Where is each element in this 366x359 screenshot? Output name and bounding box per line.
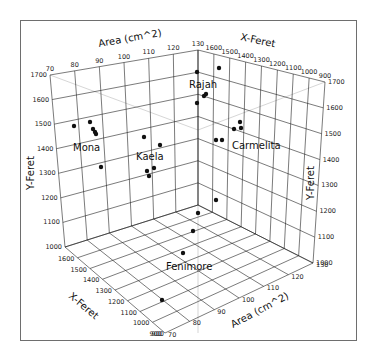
data-point-fenimore: [214, 198, 218, 202]
tick-area-top: 80: [71, 61, 79, 69]
tick-area-top: 130: [192, 40, 204, 48]
data-point-carmelita: [239, 126, 243, 130]
data-point-kaela: [142, 135, 146, 139]
data-point-rajah: [204, 92, 208, 96]
tick-xferet-bottom: 1100: [120, 309, 137, 317]
tick-yferet-right: 1100: [318, 233, 335, 241]
tick-xferet-bottom: 1200: [108, 298, 125, 306]
tick-xferet-top: 1400: [237, 52, 254, 60]
group-label-kaela: Kaela: [136, 151, 164, 162]
data-point-fenimore: [181, 251, 185, 255]
data-point-carmelita: [214, 138, 218, 142]
tick-area-bottom: 110: [267, 284, 279, 292]
data-point-rajah: [195, 70, 199, 74]
data-point-rajah: [217, 66, 221, 70]
tick-area-bottom: 90: [217, 308, 225, 316]
tick-yferet-left: 1100: [43, 218, 60, 226]
tick-area-top: 120: [167, 44, 179, 52]
tick-area-bottom: 80: [193, 319, 201, 327]
tick-yferet-right: 1400: [323, 156, 340, 164]
group-label-fenimore: Fenimore: [166, 261, 212, 272]
data-point-rajah: [195, 101, 199, 105]
tick-xferet-bottom: 1600: [58, 255, 75, 263]
scatter-3d-chart: 7080901001101201301600150014001300120011…: [0, 0, 366, 359]
tick-area-bottom: 120: [291, 273, 303, 281]
data-point-mona: [94, 132, 98, 136]
tick-area-bottom: 70: [168, 331, 176, 339]
tick-area-bottom: 100: [242, 296, 254, 304]
data-point-mona: [88, 120, 92, 124]
tick-xferet-bottom: 1500: [70, 266, 87, 274]
tick-yferet-left: 1000: [45, 243, 62, 251]
tick-yferet-left: 1400: [37, 145, 54, 153]
tick-yferet-left: 1700: [30, 71, 47, 79]
tick-xferet-top: 1100: [285, 64, 302, 72]
tick-yferet-left: 1200: [41, 194, 58, 202]
tick-area-top: 100: [118, 53, 130, 61]
axis-label-yferet-left: Y-Feret: [25, 156, 36, 191]
tick-area-bottom: 130: [316, 261, 328, 269]
data-point-kaela: [158, 143, 162, 147]
tick-xferet-top: 1600: [206, 44, 223, 52]
data-point-fenimore: [191, 229, 195, 233]
tick-xferet-bottom: 900: [152, 330, 164, 338]
tick-yferet-right: 1600: [326, 104, 343, 112]
group-label-mona: Mona: [73, 142, 100, 153]
axis-label-yferet-right: Y-Feret: [305, 166, 316, 201]
data-point-fenimore: [160, 298, 164, 302]
tick-yferet-right: 1200: [319, 207, 336, 215]
tick-yferet-left: 1500: [35, 120, 52, 128]
tick-xferet-bottom: 1400: [83, 276, 100, 284]
tick-yferet-right: 1700: [328, 78, 345, 86]
tick-area-top: 70: [46, 65, 54, 73]
tick-xferet-bottom: 1000: [133, 319, 150, 327]
data-point-fenimore: [196, 211, 200, 215]
data-point-kaela: [147, 174, 151, 178]
tick-xferet-top: 1300: [253, 56, 270, 64]
tick-xferet-top: 1000: [301, 68, 318, 76]
data-point-kaela: [152, 166, 156, 170]
tick-area-top: 90: [95, 57, 103, 65]
tick-xferet-top: 1200: [269, 60, 286, 68]
tick-area-top: 110: [142, 48, 154, 56]
tick-yferet-right: 1300: [321, 181, 338, 189]
data-point-mona: [99, 165, 103, 169]
data-point-carmelita: [238, 120, 242, 124]
data-point-carmelita: [220, 138, 224, 142]
data-point-carmelita: [232, 127, 236, 131]
data-point-kaela: [145, 169, 149, 173]
tick-xferet-bottom: 1300: [95, 287, 112, 295]
data-point-mona: [72, 124, 76, 128]
group-label-rajah: Rajah: [189, 79, 217, 90]
group-label-carmelita: Carmelita: [232, 140, 281, 151]
tick-yferet-right: 1500: [325, 130, 342, 138]
tick-yferet-left: 1300: [39, 169, 56, 177]
tick-xferet-top: 1500: [221, 48, 238, 56]
tick-yferet-left: 1600: [33, 96, 50, 104]
